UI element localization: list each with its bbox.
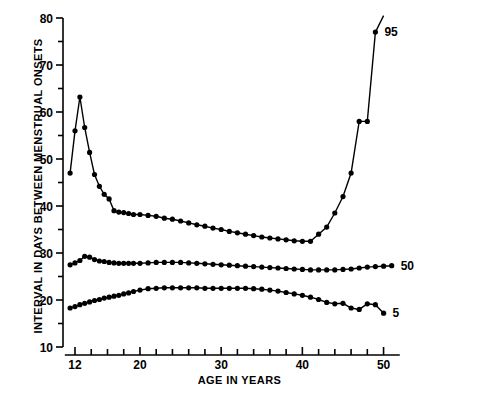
data-point bbox=[97, 297, 102, 302]
data-point bbox=[111, 208, 116, 213]
data-point bbox=[178, 285, 183, 290]
data-point bbox=[292, 291, 297, 296]
data-point bbox=[97, 184, 102, 189]
data-point bbox=[72, 260, 77, 265]
data-point bbox=[340, 267, 345, 272]
data-point bbox=[77, 302, 82, 307]
series-5 bbox=[68, 285, 387, 316]
data-point bbox=[72, 128, 77, 133]
data-point bbox=[349, 171, 354, 176]
data-point bbox=[373, 29, 378, 34]
data-point bbox=[116, 293, 121, 298]
data-point bbox=[186, 285, 191, 290]
data-point bbox=[316, 297, 321, 302]
data-point bbox=[116, 210, 121, 215]
data-point bbox=[227, 229, 232, 234]
series-label-50: 50 bbox=[401, 259, 415, 273]
data-point bbox=[267, 288, 272, 293]
data-point bbox=[365, 301, 370, 306]
data-point bbox=[219, 286, 224, 291]
data-point bbox=[340, 301, 345, 306]
data-point bbox=[275, 265, 280, 270]
data-point bbox=[194, 222, 199, 227]
data-point bbox=[126, 261, 131, 266]
data-point bbox=[219, 227, 224, 232]
data-point bbox=[102, 192, 107, 197]
x-axis: 1220304050 bbox=[65, 347, 400, 372]
data-point bbox=[194, 261, 199, 266]
data-point bbox=[82, 254, 87, 259]
data-point bbox=[102, 259, 107, 264]
data-point bbox=[137, 288, 142, 293]
svg-text:80: 80 bbox=[40, 12, 54, 26]
data-point bbox=[381, 311, 386, 316]
data-point bbox=[251, 264, 256, 269]
data-point bbox=[284, 290, 289, 295]
data-point bbox=[126, 211, 131, 216]
data-point bbox=[170, 285, 175, 290]
data-point bbox=[111, 294, 116, 299]
data-point bbox=[77, 258, 82, 263]
data-point bbox=[349, 305, 354, 310]
data-point bbox=[300, 267, 305, 272]
data-point bbox=[87, 150, 92, 155]
data-point bbox=[178, 218, 183, 223]
data-point bbox=[316, 232, 321, 237]
data-point bbox=[275, 236, 280, 241]
data-point bbox=[77, 94, 82, 99]
data-point bbox=[219, 262, 224, 267]
data-point bbox=[251, 233, 256, 238]
data-point bbox=[292, 266, 297, 271]
data-point bbox=[235, 263, 240, 268]
series-95 bbox=[68, 16, 384, 244]
data-point bbox=[92, 172, 97, 177]
data-point bbox=[121, 210, 126, 215]
data-point bbox=[332, 267, 337, 272]
data-point bbox=[154, 214, 159, 219]
data-point bbox=[162, 216, 167, 221]
data-point bbox=[332, 301, 337, 306]
data-point bbox=[259, 265, 264, 270]
data-point bbox=[194, 285, 199, 290]
data-point bbox=[137, 261, 142, 266]
data-point bbox=[137, 212, 142, 217]
y-axis-title: INTERVAL IN DAYS BETWEEN MENSTRUAL ONSET… bbox=[32, 26, 44, 346]
x-axis-title: AGE IN YEARS bbox=[0, 374, 479, 386]
data-point bbox=[146, 213, 151, 218]
data-point bbox=[68, 262, 73, 267]
data-point bbox=[284, 237, 289, 242]
data-point bbox=[154, 260, 159, 265]
data-point bbox=[332, 210, 337, 215]
data-point bbox=[210, 262, 215, 267]
data-point bbox=[292, 238, 297, 243]
data-point bbox=[227, 263, 232, 268]
svg-text:50: 50 bbox=[377, 358, 391, 372]
data-point bbox=[121, 291, 126, 296]
data-point bbox=[126, 290, 131, 295]
data-point bbox=[357, 119, 362, 124]
data-point bbox=[82, 125, 87, 130]
data-point bbox=[235, 286, 240, 291]
data-point bbox=[251, 286, 256, 291]
data-point bbox=[389, 263, 394, 268]
series-label-5: 5 bbox=[393, 306, 400, 320]
chart-plot-area: 1020304050607080 1220304050 95505 bbox=[0, 0, 479, 404]
data-point bbox=[300, 239, 305, 244]
data-point bbox=[340, 194, 345, 199]
data-point bbox=[373, 264, 378, 269]
data-point bbox=[227, 286, 232, 291]
data-point bbox=[308, 267, 313, 272]
data-point bbox=[243, 264, 248, 269]
data-point bbox=[92, 298, 97, 303]
data-point bbox=[178, 260, 183, 265]
data-point bbox=[186, 260, 191, 265]
data-point bbox=[82, 301, 87, 306]
data-point bbox=[97, 258, 102, 263]
data-point bbox=[267, 235, 272, 240]
data-point bbox=[308, 295, 313, 300]
data-point bbox=[131, 212, 136, 217]
data-point bbox=[300, 293, 305, 298]
data-point bbox=[116, 261, 121, 266]
svg-text:20: 20 bbox=[133, 358, 147, 372]
data-point bbox=[381, 264, 386, 269]
